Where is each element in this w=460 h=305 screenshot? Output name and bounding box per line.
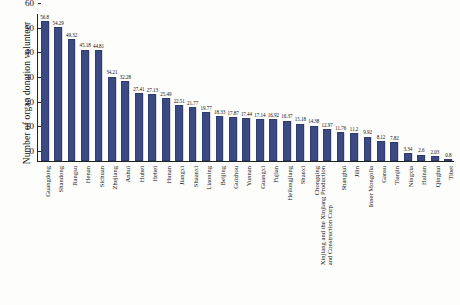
x-tick-label: Heilongjiang [286, 166, 293, 200]
y-tick-label: 10 [25, 121, 38, 131]
bar-value-label: 45.18 [79, 42, 90, 48]
bar [54, 27, 62, 161]
bar [162, 98, 170, 161]
x-tick-label: Guangxi [259, 166, 266, 189]
x-tick-label: Henan [84, 166, 91, 183]
bar [243, 118, 251, 161]
bar [404, 153, 412, 161]
x-tick-label: Qinghai [434, 166, 441, 187]
bar-value-label: 11.76 [335, 125, 346, 131]
x-tick-label: Jiangxi [178, 166, 185, 185]
bar [350, 133, 358, 161]
bar-value-label: 17.87 [227, 110, 238, 116]
bar-slot: 16.37 [280, 14, 293, 161]
bar-value-label: 17.44 [241, 111, 252, 117]
x-tick-label: Shandong [57, 166, 64, 192]
x-tick-label: Inner Mongolia [367, 166, 374, 207]
bar-value-label: 7.82 [390, 135, 399, 141]
bar-slot: 7.82 [388, 14, 401, 161]
bar-value-label: 25.49 [160, 91, 171, 97]
bar [296, 124, 304, 161]
bar-value-label: 49.32 [66, 32, 77, 38]
bar-slot: 45.18 [78, 14, 91, 161]
x-tick-label: Jiangsu [71, 166, 78, 186]
bar-value-label: 16.92 [268, 112, 279, 118]
bar-value-label: 14.38 [308, 118, 319, 124]
bar-slot: 19.77 [199, 14, 212, 161]
bar-slot: 3.34 [401, 14, 414, 161]
x-tick-label: Yunnan [245, 166, 252, 186]
bar-slot: 12.97 [320, 14, 333, 161]
y-tick-label: 50 [25, 23, 38, 33]
bar [148, 94, 156, 161]
bar [377, 141, 385, 161]
bar [108, 77, 116, 161]
bar [364, 137, 372, 161]
bar-slot: 54.29 [51, 14, 64, 161]
bar-value-label: 2.03 [430, 149, 439, 155]
bar-slot: 2.03 [428, 14, 441, 161]
x-tick-label: Beijing [219, 166, 226, 185]
bar-value-label: 32.28 [120, 74, 131, 80]
bar-value-label: 8.12 [377, 134, 386, 140]
bar [337, 132, 345, 161]
bar [391, 142, 399, 161]
bar-slot: 17.14 [253, 14, 266, 161]
bar-value-label: 21.77 [187, 100, 198, 106]
bar [444, 159, 452, 161]
bar-chart: Number of organ donation volunteer 01020… [0, 0, 460, 305]
bar-slot: 27.13 [146, 14, 159, 161]
x-tick-label: Tianjin [393, 166, 400, 185]
bar-slot: 9.92 [361, 14, 374, 161]
bar [431, 156, 439, 161]
bar-value-label: 17.14 [254, 112, 265, 118]
x-tick-label: Gansu [380, 166, 387, 183]
x-tick-label: Tibet [447, 166, 454, 180]
bar [216, 116, 224, 161]
bar [269, 119, 277, 161]
bar-slot: 14.38 [307, 14, 320, 161]
bar [310, 126, 318, 161]
x-tick-label: Liaoning [205, 166, 212, 190]
y-tick-label: 30 [25, 72, 38, 82]
bar-slot: 21.77 [186, 14, 199, 161]
x-tick-label: Fujian [272, 166, 279, 183]
bar-slot: 25.49 [159, 14, 172, 161]
bar-slot: 34.21 [105, 14, 118, 161]
bar-slot: 49.32 [65, 14, 78, 161]
bar [68, 39, 76, 161]
x-axis-tick-labels: GuangdongShandongJiangsuHenanSichuanZhej… [37, 164, 454, 302]
bar [135, 93, 143, 161]
bar-value-label: 19.77 [201, 105, 212, 111]
bar [41, 21, 49, 161]
y-tick-mark [38, 3, 41, 4]
bar-slot: 8.12 [374, 14, 387, 161]
bar-value-label: 2.6 [418, 147, 424, 153]
bar-slot: 56.8 [38, 14, 51, 161]
bar-value-label: 27.41 [133, 86, 144, 92]
bar [229, 117, 237, 161]
x-tick-label: Hebei [151, 166, 158, 182]
bar-slot: 22.51 [173, 14, 186, 161]
y-tick-label: 60 [25, 0, 38, 8]
bar [417, 155, 425, 161]
bar-slot: 27.41 [132, 14, 145, 161]
bar-value-label: 16.37 [281, 113, 292, 119]
bar-value-label: 27.13 [147, 87, 158, 93]
x-tick-label: Shanghai [340, 166, 347, 191]
bar [81, 50, 89, 161]
x-tick-label: Hainan [420, 166, 427, 185]
x-tick-label: Shaanxi [192, 166, 199, 187]
x-tick-label: Guizhou [232, 166, 239, 189]
bar-slot: 17.44 [240, 14, 253, 161]
bar-value-label: 56.8 [40, 14, 49, 20]
bar-value-label: 12.97 [322, 122, 333, 128]
x-tick-label: Xinjiang and the Xinjiang Productionand … [319, 166, 334, 265]
bar [95, 50, 103, 161]
plot-area: 0102030405060 56.854.2949.3245.1844.8134… [37, 14, 454, 162]
bar [323, 129, 331, 161]
bar-slot: 16.92 [267, 14, 280, 161]
bar-value-label: 22.51 [174, 98, 185, 104]
bar-slot: 11.76 [334, 14, 347, 161]
y-tick-label: 40 [25, 47, 38, 57]
